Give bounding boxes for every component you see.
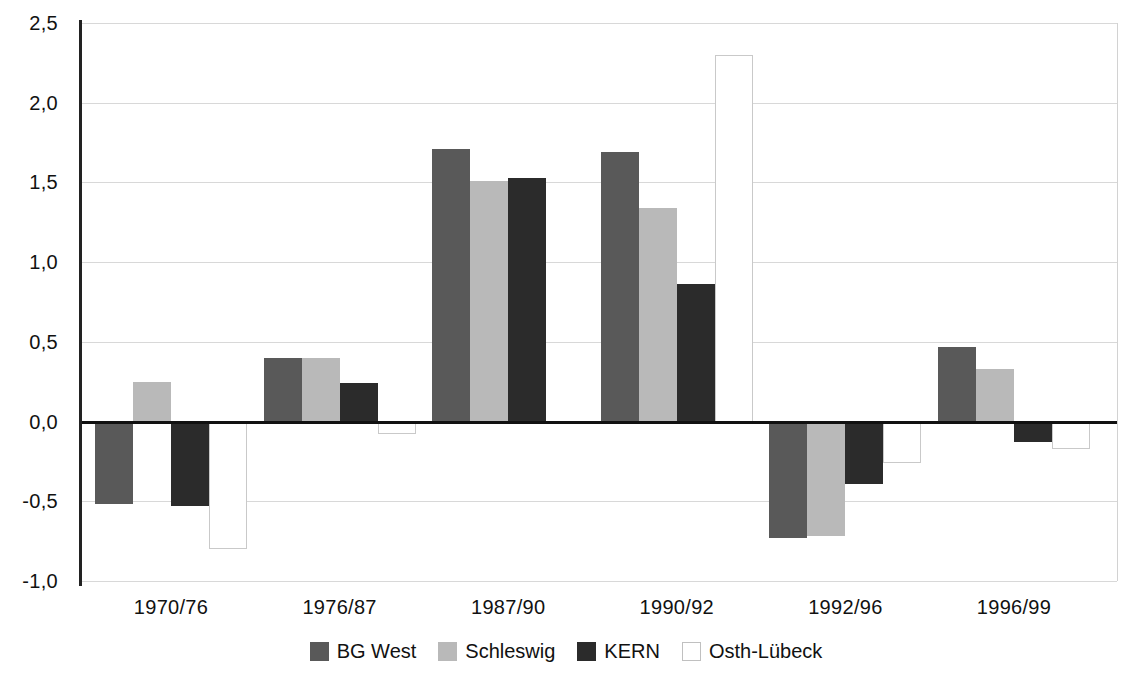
y-axis-tick-label: 1,0 <box>0 252 58 272</box>
bar-group <box>432 23 584 581</box>
bar-kern[interactable] <box>677 284 715 421</box>
bar-group <box>95 23 247 581</box>
legend-item-schleswig[interactable]: Schleswig <box>438 641 555 661</box>
bar-group <box>938 23 1090 581</box>
bar-schleswig[interactable] <box>807 422 845 537</box>
plot-area <box>80 23 1118 581</box>
chart-legend: BG WestSchleswigKERNOsth-Lübeck <box>0 641 1132 661</box>
bar-bg-west[interactable] <box>938 347 976 422</box>
bar-kern[interactable] <box>845 422 883 484</box>
legend-swatch-icon <box>310 642 329 661</box>
legend-swatch-icon <box>577 642 596 661</box>
bar-chart: 2,52,01,51,00,50,0-0,5-1,0 1970/761976/8… <box>0 0 1132 680</box>
bar-osth-luebeck[interactable] <box>883 422 921 463</box>
legend-item-osth-luebeck[interactable]: Osth-Lübeck <box>682 641 822 661</box>
gridline <box>80 581 1117 582</box>
bar-osth-luebeck[interactable] <box>1052 422 1090 449</box>
bar-bg-west[interactable] <box>264 358 302 422</box>
x-axis-tick-label: 1976/87 <box>250 596 430 618</box>
x-axis-tick-label: 1970/76 <box>81 596 261 618</box>
legend-item-label: BG West <box>337 641 417 661</box>
y-axis-tick-label: 2,5 <box>0 13 58 33</box>
y-axis-tick-label: -1,0 <box>0 571 58 591</box>
bar-kern[interactable] <box>1014 422 1052 443</box>
bar-kern[interactable] <box>340 383 378 421</box>
bar-kern[interactable] <box>171 422 209 506</box>
bar-bg-west[interactable] <box>432 149 470 422</box>
y-axis-tick-label: 1,5 <box>0 172 58 192</box>
bar-group <box>601 23 753 581</box>
x-axis-tick-label: 1992/96 <box>755 596 935 618</box>
bar-group <box>264 23 416 581</box>
bar-bg-west[interactable] <box>95 422 133 505</box>
bar-schleswig[interactable] <box>976 369 1014 422</box>
bar-osth-luebeck[interactable] <box>209 422 247 550</box>
zero-baseline <box>80 421 1117 424</box>
bar-bg-west[interactable] <box>769 422 807 538</box>
bar-group <box>769 23 921 581</box>
y-axis-tick-label: -0,5 <box>0 491 58 511</box>
y-axis-tick-label: 0,5 <box>0 332 58 352</box>
legend-item-label: Osth-Lübeck <box>709 641 822 661</box>
x-axis-tick-label: 1987/90 <box>418 596 598 618</box>
bar-schleswig[interactable] <box>302 358 340 422</box>
legend-swatch-icon <box>438 642 457 661</box>
legend-item-label: KERN <box>604 641 660 661</box>
bar-bg-west[interactable] <box>601 152 639 421</box>
legend-swatch-icon <box>682 642 701 661</box>
y-axis-tick-label: 2,0 <box>0 93 58 113</box>
x-axis-tick-label: 1996/99 <box>924 596 1104 618</box>
bar-schleswig[interactable] <box>470 181 508 422</box>
legend-item-label: Schleswig <box>465 641 555 661</box>
bar-schleswig[interactable] <box>133 382 171 422</box>
legend-item-bg-west[interactable]: BG West <box>310 641 417 661</box>
y-axis-tick-label: 0,0 <box>0 412 58 432</box>
bar-kern[interactable] <box>508 178 546 422</box>
y-axis-line <box>79 20 82 586</box>
x-axis-tick-label: 1990/92 <box>587 596 767 618</box>
bar-schleswig[interactable] <box>639 208 677 422</box>
legend-item-kern[interactable]: KERN <box>577 641 660 661</box>
bar-osth-luebeck[interactable] <box>715 55 753 422</box>
